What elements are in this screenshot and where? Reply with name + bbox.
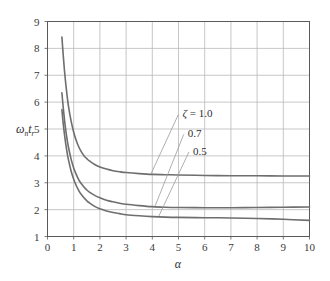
x-axis-title: α bbox=[175, 257, 182, 271]
y-tick-label-3: 3 bbox=[34, 177, 40, 189]
y-tick-label-6: 6 bbox=[34, 96, 40, 108]
x-tick-label-4: 4 bbox=[150, 241, 156, 253]
legend-label-1.0: ζ = 1.0 bbox=[183, 107, 213, 120]
chart-background bbox=[0, 0, 330, 281]
x-tick-label-5: 5 bbox=[176, 241, 182, 253]
y-axis-title-sub-r: r bbox=[32, 129, 35, 138]
x-tick-label-1: 1 bbox=[71, 241, 77, 253]
chart-figure: 012345678910 123456789 α ωntr ζ = 1.00.7… bbox=[0, 0, 330, 281]
y-tick-label-2: 2 bbox=[34, 204, 40, 216]
x-tick-label-10: 10 bbox=[304, 241, 316, 253]
x-tick-label-6: 6 bbox=[202, 241, 208, 253]
chart-canvas: 012345678910 123456789 α ωntr ζ = 1.00.7… bbox=[0, 0, 330, 281]
x-tick-label-0: 0 bbox=[45, 241, 51, 253]
y-tick-label-5: 5 bbox=[34, 123, 40, 135]
y-tick-label-8: 8 bbox=[34, 42, 40, 54]
y-tick-label-9: 9 bbox=[34, 16, 40, 28]
y-axis-title-omega: ω bbox=[16, 122, 24, 136]
y-tick-label-4: 4 bbox=[34, 150, 40, 162]
y-tick-label-7: 7 bbox=[34, 69, 40, 81]
x-tick-label-2: 2 bbox=[97, 241, 103, 253]
x-tick-label-8: 8 bbox=[254, 241, 260, 253]
legend-label-0.7: 0.7 bbox=[188, 127, 202, 139]
legend-label-0.5: 0.5 bbox=[193, 145, 207, 157]
x-tick-label-3: 3 bbox=[123, 241, 129, 253]
y-tick-label-1: 1 bbox=[34, 231, 40, 243]
x-tick-label-9: 9 bbox=[281, 241, 287, 253]
x-tick-label-7: 7 bbox=[228, 241, 234, 253]
